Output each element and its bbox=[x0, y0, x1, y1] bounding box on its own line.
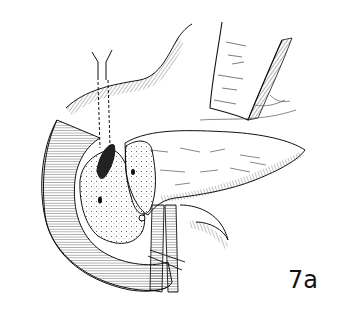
stomach-shading bbox=[66, 38, 184, 116]
anatomical-illustration: 7a bbox=[0, 0, 343, 314]
jejunal-loop bbox=[180, 205, 228, 240]
duct-orifice bbox=[98, 197, 102, 204]
figure-label: 7a bbox=[288, 268, 318, 292]
pancreatic-duct bbox=[131, 169, 135, 175]
vessel-clip bbox=[139, 215, 145, 221]
